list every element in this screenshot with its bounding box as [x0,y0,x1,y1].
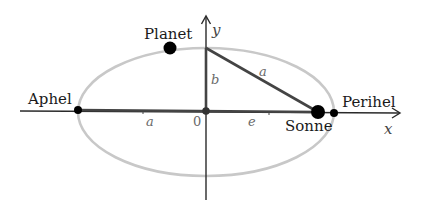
perihel-label: Perihel [342,93,396,111]
semi-minor-label: b [211,72,219,87]
origin-point [202,107,210,115]
planet-point [164,42,177,55]
ellipse-orbit-diagram: Aphel Perihel Sonne Planet y x 0 a b a e [0,0,421,210]
aphel-label: Aphel [27,90,72,108]
planet-label: Planet [144,25,192,43]
semi-major-label: a [146,114,154,129]
origin-label: 0 [193,114,201,129]
sun-label: Sonne [285,117,333,135]
perihel-point [330,109,338,117]
hypotenuse-label: a [259,64,267,79]
aphel-point [74,106,82,114]
eccentricity-label: e [248,114,256,129]
y-axis-label: y [211,21,221,39]
x-axis-label: x [384,120,393,138]
hypotenuse-segment [206,48,318,112]
